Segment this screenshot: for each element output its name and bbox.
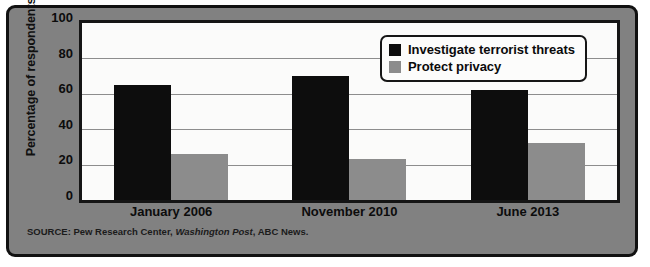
source-prefix: SOURCE: Pew Research Center, [27, 226, 173, 237]
x-axis-tick-labels: January 2006 November 2010 June 2013 [82, 204, 617, 219]
bar-pair [82, 23, 260, 200]
legend-item-investigate-terrorist-threats: Investigate terrorist threats [389, 41, 575, 58]
bar-protect-privacy [528, 143, 585, 200]
y-tick-label: 20 [27, 152, 73, 167]
y-tick-label: 80 [27, 45, 73, 60]
legend-swatch-icon [389, 61, 401, 73]
chart-figure: Percentage of respondents 100 80 60 40 2… [6, 5, 638, 257]
x-tick-label: June 2013 [439, 204, 617, 219]
legend-item-protect-privacy: Protect privacy [389, 58, 575, 75]
legend-label: Investigate terrorist threats [408, 42, 575, 57]
source-suffix: , ABC News. [253, 226, 309, 237]
legend-label: Protect privacy [408, 59, 501, 74]
bar-investigate-terrorist-threats [114, 85, 171, 200]
bar-investigate-terrorist-threats [471, 90, 528, 200]
bar-group [82, 23, 260, 200]
bar-protect-privacy [349, 159, 406, 200]
chart-legend: Investigate terrorist threats Protect pr… [380, 35, 587, 82]
x-tick-label: January 2006 [82, 204, 260, 219]
y-tick-label: 40 [27, 116, 73, 131]
legend-swatch-icon [389, 44, 401, 56]
bar-protect-privacy [171, 154, 228, 200]
y-axis-tick-labels: 100 80 60 40 20 0 [27, 17, 73, 195]
source-note: SOURCE: Pew Research Center, Washington … [27, 226, 308, 237]
x-tick-label: November 2010 [260, 204, 438, 219]
bar-investigate-terrorist-threats [292, 76, 349, 200]
source-italic: Washington Post [175, 226, 252, 237]
y-tick-label: 100 [27, 10, 73, 25]
y-tick-label: 60 [27, 81, 73, 96]
y-tick-label: 0 [27, 188, 73, 203]
